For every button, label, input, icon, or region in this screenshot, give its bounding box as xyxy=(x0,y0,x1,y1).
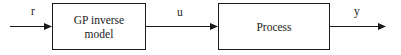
signal-y-label: y xyxy=(354,5,360,17)
gp-inverse-model-block: GP inverse model xyxy=(52,3,146,50)
signal-u-label: u xyxy=(177,6,183,18)
process-label: Process xyxy=(256,20,291,34)
gp-inverse-model-label: GP inverse model xyxy=(74,13,124,41)
process-block: Process xyxy=(218,3,330,50)
signal-u-arrowhead-icon xyxy=(210,23,218,30)
signal-r-label: r xyxy=(31,5,35,17)
signal-y-arrowhead-icon xyxy=(378,23,386,30)
gp-inverse-model-label-line-1: GP inverse xyxy=(74,13,124,27)
gp-inverse-model-label-line-2: model xyxy=(74,27,124,41)
signal-r-arrowhead-icon xyxy=(44,23,52,30)
control-block-diagram: GP inverse model Process r u y xyxy=(0,0,401,55)
